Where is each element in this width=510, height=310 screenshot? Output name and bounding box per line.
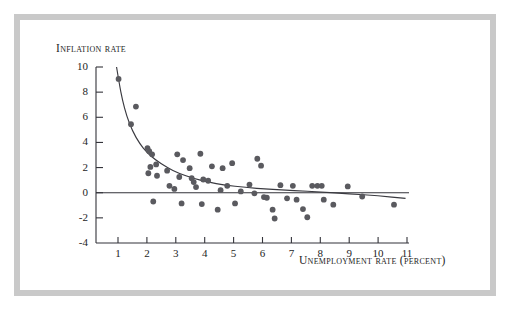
data-point (278, 182, 284, 188)
data-point (294, 197, 300, 203)
data-point (272, 216, 278, 222)
data-point (309, 183, 315, 189)
data-point (224, 183, 230, 189)
data-point (238, 189, 244, 195)
y-tick-label: 2 (66, 161, 88, 173)
x-tick-label: 11 (398, 247, 416, 259)
data-point (252, 190, 258, 196)
data-points-layer (116, 76, 397, 221)
data-point (197, 151, 203, 157)
data-point (264, 195, 270, 201)
data-point (193, 184, 199, 190)
axes-layer (96, 67, 409, 243)
y-tick-label: -2 (66, 211, 88, 223)
data-point (284, 195, 290, 201)
y-tick-label: 0 (66, 186, 88, 198)
data-point (290, 183, 296, 189)
data-point (179, 201, 185, 207)
data-point (391, 202, 397, 208)
data-point (330, 202, 336, 208)
x-tick-label: 9 (340, 247, 358, 259)
data-point (200, 177, 206, 183)
data-point (150, 199, 156, 205)
data-point (153, 162, 159, 168)
data-point (187, 165, 193, 171)
plot-canvas (0, 0, 510, 310)
data-point (270, 207, 276, 213)
data-point (300, 206, 306, 212)
data-point (359, 194, 365, 200)
data-point (116, 76, 122, 82)
data-point (254, 156, 260, 162)
y-tick-label: 10 (66, 60, 88, 72)
x-tick-label: 3 (167, 247, 185, 259)
x-tick-label: 6 (254, 247, 272, 259)
data-point (199, 201, 205, 207)
data-point (147, 164, 153, 170)
y-tick-label: 4 (66, 135, 88, 147)
data-point (209, 163, 215, 169)
x-tick-label: 10 (369, 247, 387, 259)
data-point (229, 160, 235, 166)
x-tick-label: 2 (138, 247, 156, 259)
data-point (345, 184, 351, 190)
x-tick-label: 4 (196, 247, 214, 259)
screenshot-root: Inflation rate Unemployment rate (percen… (0, 0, 510, 310)
x-tick-label: 8 (311, 247, 329, 259)
data-point (154, 173, 160, 179)
data-point (174, 151, 180, 157)
data-point (218, 187, 224, 193)
data-point (220, 165, 226, 171)
fit-curve-layer (117, 67, 406, 198)
data-point (205, 178, 211, 184)
scatter-plot: Inflation rate Unemployment rate (percen… (0, 0, 510, 310)
data-point (128, 121, 134, 127)
data-point (215, 207, 221, 213)
fitted-phillips-curve (117, 67, 406, 198)
y-tick-label: 6 (66, 110, 88, 122)
data-point (319, 183, 325, 189)
data-point (180, 157, 186, 163)
data-point (145, 170, 151, 176)
x-tick-label: 1 (109, 247, 127, 259)
data-point (167, 183, 173, 189)
data-point (321, 197, 327, 203)
data-point (258, 163, 264, 169)
data-point (164, 168, 170, 174)
data-point (149, 151, 155, 157)
y-tick-label: 8 (66, 85, 88, 97)
data-point (247, 182, 253, 188)
data-point (232, 201, 238, 207)
x-tick-label: 7 (282, 247, 300, 259)
data-point (191, 179, 197, 185)
y-tick-label: -4 (66, 236, 88, 248)
data-point (176, 174, 182, 180)
data-point (171, 186, 177, 192)
data-point (304, 214, 310, 220)
x-tick-label: 5 (225, 247, 243, 259)
data-point (133, 104, 139, 110)
